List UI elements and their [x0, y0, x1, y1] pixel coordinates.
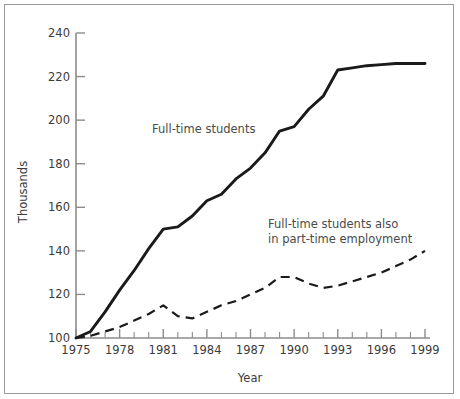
y-tick-label-200: 200 — [48, 113, 70, 127]
chart-figure: 100120140160180200220240 197519781981198… — [0, 0, 460, 399]
y-tick-label-160: 160 — [48, 200, 70, 214]
y-axis-ticks — [76, 33, 85, 338]
series-line-full-time-students — [76, 64, 425, 339]
annotation-full-time-students: Full-time students — [152, 122, 255, 136]
line-chart: 100120140160180200220240 197519781981198… — [0, 0, 460, 399]
x-tick-label-1981: 1981 — [149, 343, 178, 357]
x-tick-label-1975: 1975 — [61, 343, 90, 357]
annotation-part-time-line2: in part-time employment — [268, 232, 413, 246]
x-tick-label-1990: 1990 — [279, 343, 308, 357]
x-tick-label-1987: 1987 — [236, 343, 265, 357]
x-tick-label-1999: 1999 — [410, 343, 439, 357]
x-tick-label-1996: 1996 — [367, 343, 396, 357]
x-tick-label-1984: 1984 — [192, 343, 221, 357]
x-axis-title: Year — [237, 371, 263, 385]
x-tick-label-1993: 1993 — [323, 343, 352, 357]
x-axis-tick-labels: 197519781981198419871990199319961999 — [61, 343, 439, 357]
x-tick-label-1978: 1978 — [105, 343, 134, 357]
x-axis-ticks — [76, 329, 425, 338]
y-tick-label-140: 140 — [48, 244, 70, 258]
y-tick-label-220: 220 — [48, 70, 70, 84]
series-line-part-time-employment — [76, 251, 425, 338]
y-axis-tick-labels: 100120140160180200220240 — [48, 26, 70, 345]
y-tick-label-240: 240 — [48, 26, 70, 40]
y-axis-title: Thousands — [16, 161, 30, 224]
annotation-part-time-line1: Full-time students also — [268, 217, 398, 231]
y-tick-label-120: 120 — [48, 287, 70, 301]
y-tick-label-180: 180 — [48, 157, 70, 171]
